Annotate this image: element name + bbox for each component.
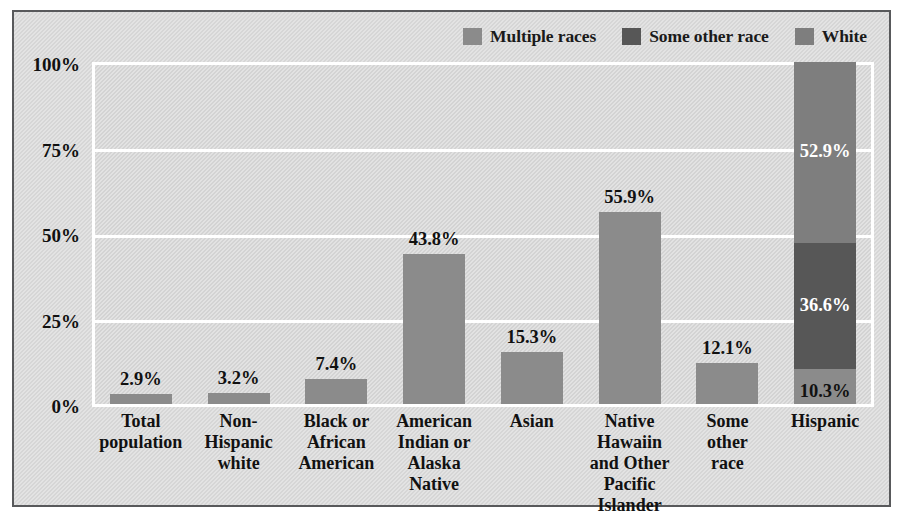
bars-layer: 2.9% 3.2% 7.4% 43.8% xyxy=(92,62,874,407)
legend-label-some-other-race: Some other race xyxy=(649,26,769,47)
bar-value-label: 10.3% xyxy=(794,381,856,402)
x-label-black-or-african-american: Black or African American xyxy=(288,411,386,474)
bar-slot-non-hispanic-white: 3.2% xyxy=(190,65,288,404)
x-label-line: other xyxy=(679,432,777,453)
x-label-native-hawaiian-pacific-islander: Native Hawaiin and Other Pacific Islande… xyxy=(575,411,685,516)
x-label-line: Some xyxy=(679,411,777,432)
bar-segment-multiple-races[interactable]: 3.2% xyxy=(208,393,270,404)
bar-value-label: 43.8% xyxy=(403,229,465,250)
x-axis: Total population Non-Hispanic white Blac… xyxy=(92,411,874,511)
bar-segment-multiple-races[interactable]: 7.4% xyxy=(305,379,367,404)
x-label-non-hispanic-white: Non-Hispanic white xyxy=(190,411,288,474)
bar-some-other-race[interactable]: 12.1% xyxy=(696,363,758,405)
x-label-line: Islander xyxy=(575,495,685,516)
legend-label-white: White xyxy=(822,26,867,47)
bar-segment-multiple-races[interactable]: 12.1% xyxy=(696,363,758,405)
x-label-line: population xyxy=(92,432,190,453)
bar-slot-total-population: 2.9% xyxy=(92,65,190,404)
bar-non-hispanic-white[interactable]: 3.2% xyxy=(208,393,270,404)
bar-slot-hispanic: 52.9% 36.6% 10.3% xyxy=(776,65,874,404)
bar-segment-white[interactable]: 52.9% xyxy=(794,62,856,243)
y-tick-0: 0% xyxy=(52,396,81,418)
legend-swatch-multiple-races xyxy=(463,28,482,45)
y-tick-25: 25% xyxy=(42,311,80,333)
x-label-line: African xyxy=(288,432,386,453)
bar-segment-multiple-races[interactable]: 15.3% xyxy=(501,352,563,404)
chart-card: Multiple races Some other race White 100… xyxy=(12,10,891,507)
bar-slot-native-hawaiian-pacific-islander: 55.9% xyxy=(581,65,679,404)
bar-slot-american-indian-or-alaska-native: 43.8% xyxy=(385,65,483,404)
x-label-line: race xyxy=(679,453,777,474)
bar-value-label: 15.3% xyxy=(501,327,563,348)
x-label-line: Native xyxy=(385,474,483,495)
bar-hispanic[interactable]: 52.9% 36.6% 10.3% xyxy=(794,62,856,404)
bar-slot-asian: 15.3% xyxy=(483,65,581,404)
bar-total-population[interactable]: 2.9% xyxy=(110,394,172,404)
x-label-line: Asian xyxy=(483,411,581,432)
bar-value-label: 7.4% xyxy=(305,354,367,375)
x-label-line: Native Hawaiin xyxy=(575,411,685,453)
x-label-hispanic: Hispanic xyxy=(776,411,874,432)
bar-segment-multiple-races[interactable]: 55.9% xyxy=(599,212,661,404)
bar-asian[interactable]: 15.3% xyxy=(501,352,563,404)
x-label-american-indian-or-alaska-native: American Indian or Alaska Native xyxy=(385,411,483,495)
x-label-line: white xyxy=(190,453,288,474)
x-label-line: Non-Hispanic xyxy=(190,411,288,453)
y-tick-50: 50% xyxy=(42,225,80,247)
y-axis: 100% 75% 50% 25% 0% xyxy=(14,62,86,407)
bar-value-label: 55.9% xyxy=(599,187,661,208)
x-label-line: Total xyxy=(92,411,190,432)
bar-value-label: 52.9% xyxy=(794,141,856,162)
x-label-line: American xyxy=(288,453,386,474)
bar-value-label: 36.6% xyxy=(794,295,856,316)
x-label-total-population: Total population xyxy=(92,411,190,453)
legend-swatch-white xyxy=(795,28,814,45)
legend-swatch-some-other-race xyxy=(622,28,641,45)
x-label-line: Alaska xyxy=(385,453,483,474)
bar-slot-some-other-race: 12.1% xyxy=(679,65,777,404)
x-label-line: Pacific xyxy=(575,474,685,495)
bar-value-label: 2.9% xyxy=(110,369,172,390)
bar-segment-some-other-race[interactable]: 36.6% xyxy=(794,243,856,369)
bar-american-indian-or-alaska-native[interactable]: 43.8% xyxy=(403,254,465,404)
x-label-line: Indian or xyxy=(385,432,483,453)
legend-item-some-other-race[interactable]: Some other race xyxy=(622,26,769,47)
bar-segment-multiple-races[interactable]: 10.3% xyxy=(794,369,856,404)
x-label-line: and Other xyxy=(575,453,685,474)
legend-label-multiple-races: Multiple races xyxy=(490,26,596,47)
bar-black-or-african-american[interactable]: 7.4% xyxy=(305,379,367,404)
bar-slot-black-or-african-american: 7.4% xyxy=(288,65,386,404)
x-label-asian: Asian xyxy=(483,411,581,432)
x-label-line: Hispanic xyxy=(776,411,874,432)
x-label-line: American xyxy=(385,411,483,432)
x-label-line: Black or xyxy=(288,411,386,432)
chart-legend: Multiple races Some other race White xyxy=(14,26,889,47)
bar-segment-multiple-races[interactable]: 2.9% xyxy=(110,394,172,404)
bar-value-label: 12.1% xyxy=(696,338,758,359)
bar-value-label: 3.2% xyxy=(208,368,270,389)
legend-item-white[interactable]: White xyxy=(795,26,867,47)
y-tick-100: 100% xyxy=(33,54,81,76)
x-label-some-other-race: Some other race xyxy=(679,411,777,474)
bar-native-hawaiian-pacific-islander[interactable]: 55.9% xyxy=(599,212,661,404)
bar-segment-multiple-races[interactable]: 43.8% xyxy=(403,254,465,404)
y-tick-75: 75% xyxy=(42,140,80,162)
legend-item-multiple-races[interactable]: Multiple races xyxy=(463,26,596,47)
